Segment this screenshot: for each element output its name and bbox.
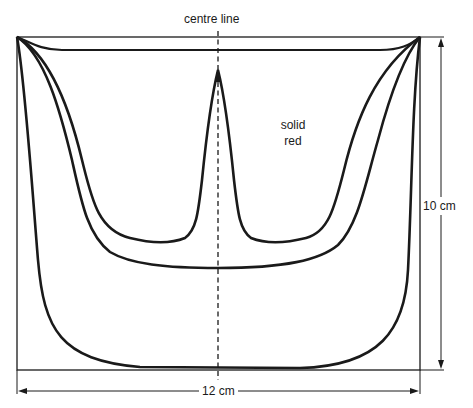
height-arrow-down-icon [438,360,444,369]
height-dimension-label: 10 cm [423,197,456,215]
centre-line-label: centre line [184,12,239,26]
region-color-label: solid red [276,117,310,149]
region-label-line2: red [276,133,310,149]
width-arrow-left-icon [18,388,27,394]
width-arrow-right-icon [410,388,419,394]
region-label-line1: solid [276,117,310,133]
diagram-canvas [0,0,473,408]
width-dimension-label: 12 cm [199,384,238,398]
height-arrow-up-icon [438,38,444,47]
